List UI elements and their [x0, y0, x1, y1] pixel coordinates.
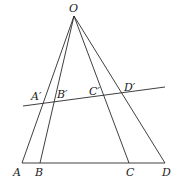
label-O: O — [69, 2, 78, 15]
label-C: C — [126, 166, 135, 179]
label-A: A — [12, 166, 21, 179]
label-D: D — [161, 166, 171, 179]
cross-ratio-diagram: O A B C D A′ B′ C′ D′ — [0, 0, 179, 187]
segment-OC — [74, 16, 129, 163]
label-D-prime: D′ — [123, 81, 136, 94]
label-B-prime: B′ — [56, 88, 68, 101]
segment-OD — [74, 16, 165, 163]
label-B: B — [34, 166, 43, 179]
label-A-prime: A′ — [30, 90, 42, 103]
label-C-prime: C′ — [89, 85, 100, 98]
